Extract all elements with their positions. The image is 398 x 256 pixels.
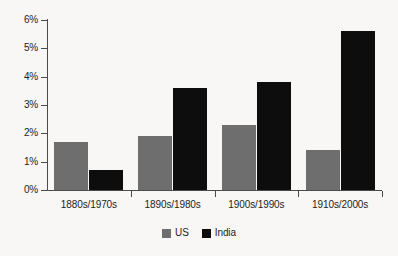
y-axis-tick-label: 5% [4,43,38,53]
x-axis-tick [382,191,383,197]
y-axis-tick-label-wrap: 3% [0,100,38,110]
bar-india-0 [89,170,123,190]
legend-entry-india[interactable]: India [202,228,236,238]
y-axis-tick-label-wrap: 5% [0,43,38,53]
legend-entry-us[interactable]: US [162,228,189,238]
bar-us-0 [54,142,88,190]
x-axis-tick [215,191,216,197]
y-axis-tick-label-wrap: 4% [0,72,38,82]
x-axis-tick [131,191,132,197]
x-axis-category-label: 1910s/2000s [298,199,382,211]
black-square-icon [202,229,211,238]
bar-group [306,20,375,190]
y-axis-tick-label-wrap: 6% [0,15,38,25]
y-axis-tick-label-wrap: 1% [0,157,38,167]
plot-area [47,20,382,190]
gray-square-icon [162,229,171,238]
x-axis-category-label: 1880s/1970s [47,199,131,211]
y-axis-tick-label: 3% [4,100,38,110]
bar-group [138,20,207,190]
bar-group [222,20,291,190]
bar-india-1 [173,88,207,190]
y-axis-tick-label: 2% [4,128,38,138]
bar-us-3 [306,150,340,190]
chart-legend: USIndia [0,228,398,238]
x-axis-category-label: 1890s/1980s [131,199,215,211]
x-axis-category-label: 1900s/1990s [215,199,299,211]
legend-label: India [215,228,236,238]
y-axis-tick-label: 1% [4,157,38,167]
y-axis-tick-label-wrap: 0% [0,185,38,195]
x-axis-tick [298,191,299,197]
bar-group [54,20,123,190]
y-axis-tick-label-wrap: 2% [0,128,38,138]
bar-us-2 [222,125,256,190]
bar-us-1 [138,136,172,190]
bar-india-2 [257,82,291,190]
y-axis-tick-label: 0% [4,185,38,195]
y-axis-tick-label: 4% [4,72,38,82]
bar-chart: 0%1%2%3%4%5%6% 1880s/1970s1890s/1980s190… [0,0,398,256]
bar-india-3 [341,31,375,190]
y-axis-tick-label: 6% [4,15,38,25]
legend-label: US [175,228,189,238]
